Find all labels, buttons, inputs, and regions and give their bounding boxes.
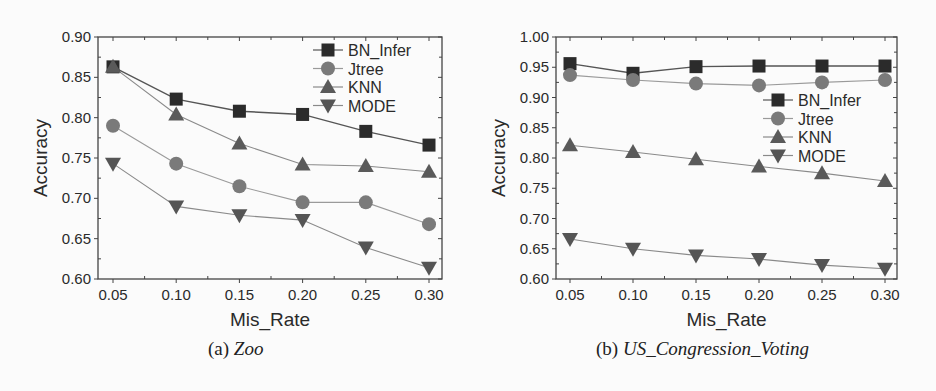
data-point-marker — [233, 105, 246, 118]
data-point-marker — [359, 125, 372, 138]
x-tick-label: 0.20 — [288, 286, 317, 303]
data-point-marker — [563, 68, 577, 82]
chart-us-congression-voting: 0.600.650.700.750.800.850.900.951.000.05… — [488, 28, 900, 331]
data-point-marker — [423, 139, 436, 152]
legend-label: BN_Infer — [798, 92, 862, 110]
data-point-marker — [688, 249, 704, 263]
x-tick-label: 0.05 — [98, 286, 127, 303]
data-point-marker — [295, 214, 311, 228]
series-bn-infer — [564, 57, 892, 80]
series-knn — [105, 59, 437, 178]
data-point-marker — [877, 263, 893, 277]
x-tick-label: 0.10 — [162, 286, 191, 303]
y-tick-label: 0.90 — [62, 28, 91, 45]
y-axis-title: Accuracy — [488, 118, 509, 197]
data-point-marker — [296, 108, 309, 121]
data-point-marker — [106, 119, 120, 133]
data-point-marker — [626, 73, 640, 87]
y-tick-label: 0.70 — [520, 210, 549, 227]
plot-frame — [98, 37, 442, 279]
legend: BN_InferJtreeKNNMODE — [313, 42, 412, 115]
y-tick-label: 0.85 — [520, 119, 549, 136]
data-point-marker — [752, 78, 766, 92]
data-point-marker — [879, 60, 892, 73]
y-tick-label: 1.00 — [520, 28, 549, 45]
legend-marker-icon — [320, 100, 336, 114]
data-point-marker — [421, 262, 437, 276]
data-point-marker — [231, 135, 247, 149]
x-tick-label: 0.30 — [870, 286, 899, 303]
data-point-marker — [169, 157, 183, 171]
data-point-marker — [232, 179, 246, 193]
legend-marker-icon — [771, 112, 785, 126]
legend-label: KNN — [798, 129, 832, 146]
legend-label: Jtree — [798, 111, 834, 128]
data-point-marker — [814, 259, 830, 273]
caption-label: (a) — [208, 338, 229, 359]
caption-name: Zoo — [234, 338, 264, 359]
x-tick-label: 0.15 — [681, 286, 710, 303]
data-point-marker — [878, 73, 892, 87]
x-axis-title: Mis_Rate — [686, 309, 766, 331]
data-point-marker — [689, 77, 703, 91]
legend-marker-icon — [772, 94, 785, 107]
x-tick-label: 0.05 — [555, 286, 584, 303]
data-point-marker — [296, 195, 310, 209]
legend-label: Jtree — [348, 61, 384, 78]
chart-zoo: 0.600.650.700.750.800.850.900.050.100.15… — [30, 28, 444, 331]
legend-marker-icon — [322, 44, 335, 57]
y-tick-label: 0.70 — [62, 189, 91, 206]
x-axis-title: Mis_Rate — [230, 309, 310, 331]
y-tick-label: 0.60 — [62, 270, 91, 287]
y-tick-label: 0.90 — [520, 89, 549, 106]
data-point-marker — [753, 60, 766, 73]
data-point-marker — [358, 158, 374, 172]
y-tick-label: 0.80 — [520, 149, 549, 166]
y-tick-label: 0.75 — [520, 179, 549, 196]
data-point-marker — [358, 242, 374, 256]
figure: 0.600.650.700.750.800.850.900.050.100.15… — [0, 0, 936, 391]
legend-marker-icon — [770, 129, 786, 143]
y-tick-label: 0.85 — [62, 68, 91, 85]
y-tick-label: 0.95 — [520, 58, 549, 75]
legend-label: MODE — [798, 148, 846, 165]
data-point-marker — [359, 195, 373, 209]
legend-label: BN_Infer — [348, 42, 412, 60]
legend-marker-icon — [770, 150, 786, 164]
y-axis-title: Accuracy — [30, 118, 51, 197]
series-mode — [105, 158, 437, 276]
data-point-marker — [422, 217, 436, 231]
legend-label: KNN — [348, 79, 382, 96]
x-tick-label: 0.20 — [744, 286, 773, 303]
legend-label: MODE — [348, 98, 396, 115]
y-tick-label: 0.60 — [520, 270, 549, 287]
legend-marker-icon — [321, 62, 335, 76]
data-point-marker — [231, 209, 247, 223]
y-tick-label: 0.75 — [62, 149, 91, 166]
x-tick-label: 0.25 — [807, 286, 836, 303]
caption-label: (b) — [596, 338, 618, 359]
caption-name: US_Congression_Voting — [623, 338, 809, 359]
x-tick-label: 0.10 — [618, 286, 647, 303]
legend: BN_InferJtreeKNNMODE — [763, 92, 862, 165]
x-tick-label: 0.15 — [225, 286, 254, 303]
data-point-marker — [690, 60, 703, 73]
y-tick-label: 0.65 — [62, 230, 91, 247]
y-tick-label: 0.80 — [62, 109, 91, 126]
caption-zoo: (a) Zoo — [208, 338, 263, 360]
series-mode — [562, 233, 893, 277]
data-point-marker — [562, 137, 578, 151]
data-point-marker — [105, 158, 121, 172]
data-point-marker — [170, 93, 183, 106]
series-jtree — [563, 68, 892, 92]
legend-marker-icon — [320, 79, 336, 93]
x-tick-label: 0.25 — [351, 286, 380, 303]
x-tick-label: 0.30 — [414, 286, 443, 303]
data-point-marker — [816, 60, 829, 73]
data-point-marker — [168, 106, 184, 120]
data-point-marker — [815, 75, 829, 89]
caption-us-congression-voting: (b) US_Congression_Voting — [596, 338, 809, 360]
y-tick-label: 0.65 — [520, 240, 549, 257]
data-point-marker — [295, 156, 311, 170]
